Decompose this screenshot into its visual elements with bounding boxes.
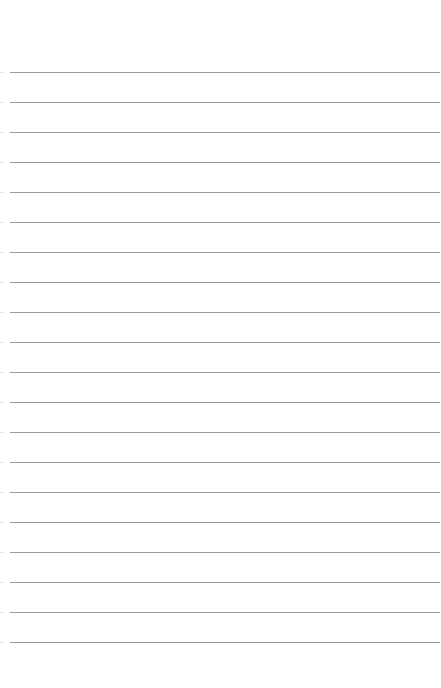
margin-mark [0,312,4,313]
ruled-line [10,252,440,253]
ruled-line [10,132,440,133]
ruled-line [10,492,440,493]
ruled-line [10,642,440,643]
margin-mark [0,282,4,283]
ruled-line [10,192,440,193]
margin-mark [0,222,4,223]
margin-mark [0,342,4,343]
ruled-line [10,462,440,463]
margin-mark [0,642,4,643]
margin-mark [0,72,4,73]
ruled-line [10,342,440,343]
ruled-line [10,72,440,73]
margin-mark [0,192,4,193]
ruled-line [10,222,440,223]
ruled-line [10,582,440,583]
margin-mark [0,582,4,583]
ruled-line [10,162,440,163]
lined-paper-page [0,0,441,688]
margin-mark [0,612,4,613]
margin-mark [0,162,4,163]
margin-mark [0,522,4,523]
ruled-line [10,312,440,313]
ruled-line [10,102,440,103]
ruled-line [10,282,440,283]
ruled-line [10,612,440,613]
margin-mark [0,372,4,373]
margin-mark [0,552,4,553]
margin-mark [0,102,4,103]
ruled-line [10,552,440,553]
margin-mark [0,492,4,493]
margin-mark [0,252,4,253]
ruled-line [10,522,440,523]
margin-mark [0,432,4,433]
ruled-line [10,432,440,433]
margin-mark [0,402,4,403]
ruled-line [10,402,440,403]
ruled-line [10,372,440,373]
margin-mark [0,132,4,133]
margin-mark [0,462,4,463]
